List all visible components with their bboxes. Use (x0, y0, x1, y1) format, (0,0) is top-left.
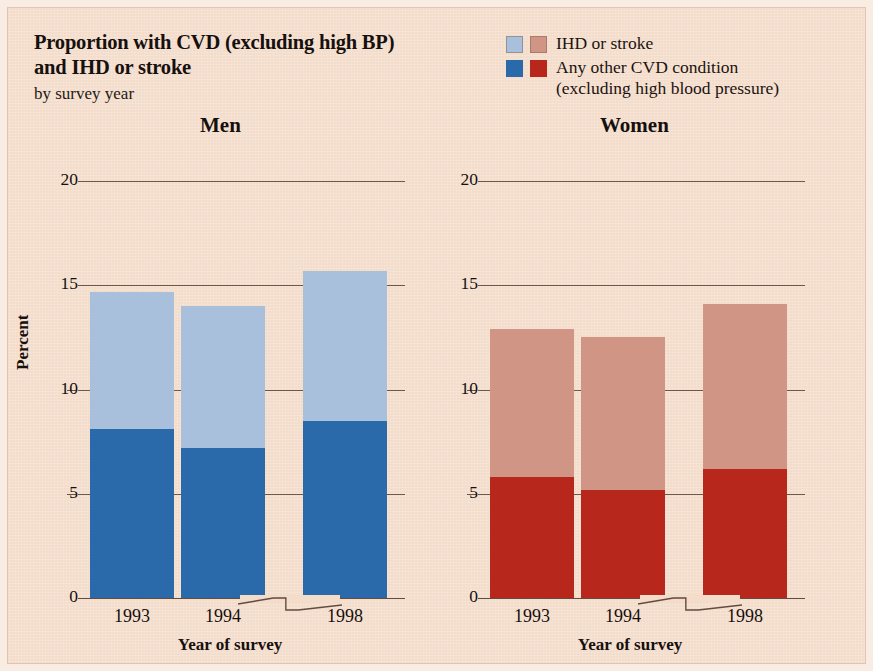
image-frame (0, 0, 873, 671)
